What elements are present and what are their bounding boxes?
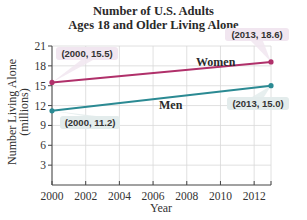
x-tick-label: 2010 bbox=[209, 190, 232, 202]
data-point bbox=[49, 108, 54, 113]
data-point bbox=[268, 59, 273, 64]
y-tick-label: 15 bbox=[35, 80, 47, 92]
x-tick-label: 2008 bbox=[175, 190, 198, 202]
y-axis-units: (millions) bbox=[17, 88, 31, 135]
series-label-women: Women bbox=[196, 55, 236, 69]
callout-label: (2000, 11.2) bbox=[65, 117, 116, 128]
series-label-men: Men bbox=[159, 98, 183, 112]
callout-label: (2013, 15.0) bbox=[232, 98, 283, 109]
callout-label: (2013, 18.6) bbox=[231, 29, 282, 40]
y-tick-label: 9 bbox=[40, 119, 46, 131]
x-tick-label: 2002 bbox=[74, 190, 97, 202]
data-point bbox=[268, 83, 273, 88]
callout-label: (2000, 15.5) bbox=[61, 48, 112, 59]
y-tick-label: 6 bbox=[40, 139, 46, 151]
line-chart: 369121518212000200220042006200820102012 … bbox=[0, 0, 307, 220]
x-axis-title: Year bbox=[150, 201, 172, 215]
y-tick-label: 3 bbox=[40, 159, 46, 171]
x-tick-label: 2012 bbox=[243, 190, 266, 202]
x-tick-label: 2004 bbox=[108, 190, 131, 202]
series-line-women bbox=[52, 62, 271, 83]
y-tick-label: 18 bbox=[35, 60, 47, 72]
y-tick-label: 12 bbox=[35, 100, 47, 112]
y-tick-label: 21 bbox=[35, 40, 47, 52]
x-tick-label: 2000 bbox=[41, 190, 64, 202]
callout-pointer bbox=[52, 111, 96, 116]
data-point bbox=[49, 80, 54, 85]
